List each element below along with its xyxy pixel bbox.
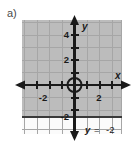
- x-axis-arrow-left: [15, 81, 25, 90]
- equation-operator: =: [94, 124, 100, 135]
- equation-variable: y: [84, 124, 91, 135]
- x-axis-label: x: [114, 70, 121, 81]
- equation-label: y = -2: [84, 124, 114, 135]
- x-tick-label-negative-2: -2: [39, 92, 47, 103]
- x-axis-arrow-right: [121, 81, 131, 90]
- x-tick-label-2: 2: [96, 92, 101, 103]
- y-tick-label-negative-2: -2: [61, 111, 69, 122]
- y-axis-arrow-down: [70, 131, 79, 141]
- y-tick-label-2: 2: [64, 54, 69, 65]
- equation-value: -2: [106, 124, 114, 135]
- y-tick-label-4: 4: [64, 29, 70, 40]
- figure-container: a): [0, 0, 135, 146]
- y-axis-label: y: [81, 21, 88, 32]
- coordinate-graph: y x -2 2 -2 2 4 y = -2: [0, 0, 135, 146]
